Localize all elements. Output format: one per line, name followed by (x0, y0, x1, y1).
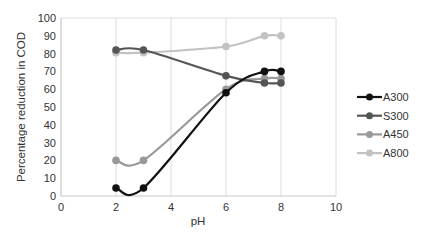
legend-label: A450 (383, 128, 409, 140)
gridlines (61, 18, 336, 196)
x-axis-label: pH (191, 215, 206, 227)
data-point (140, 46, 148, 54)
y-tick-label: 90 (44, 30, 56, 42)
series-line (116, 70, 281, 195)
legend-label: S300 (383, 110, 409, 122)
legend: A300S300A450A800 (357, 91, 409, 159)
axes (61, 18, 336, 196)
y-tick-label: 10 (44, 172, 56, 184)
data-point (140, 184, 148, 192)
series-line (116, 78, 281, 166)
x-tick-label: 6 (223, 201, 229, 213)
legend-item-a450: A450 (357, 128, 409, 140)
data-series (112, 32, 285, 195)
legend-item-a800: A800 (357, 147, 409, 159)
data-point (222, 43, 230, 51)
y-tick-label: 40 (44, 119, 56, 131)
x-tick-label: 10 (330, 201, 342, 213)
data-point (261, 68, 269, 76)
y-tick-label: 70 (44, 65, 56, 77)
data-point (277, 68, 285, 76)
data-point (140, 157, 148, 165)
x-tick-label: 4 (168, 201, 174, 213)
legend-label: A800 (383, 147, 409, 159)
x-tick-label: 8 (278, 201, 284, 213)
legend-label: A300 (383, 91, 409, 103)
legend-item-a300: A300 (357, 91, 409, 103)
legend-point-marker (366, 94, 373, 101)
legend-point-marker (366, 112, 373, 119)
y-axis-label: Percentage reduction in COD (15, 32, 27, 182)
data-point (112, 184, 120, 192)
series-a450 (112, 75, 285, 166)
y-tick-label: 60 (44, 83, 56, 95)
y-tick-label: 20 (44, 154, 56, 166)
x-tick-label: 2 (113, 201, 119, 213)
series-a800 (112, 32, 285, 57)
series-a300 (112, 68, 285, 195)
legend-item-s300: S300 (357, 110, 409, 122)
x-tick-label: 0 (58, 201, 64, 213)
x-axis-ticks: 0246810 (58, 201, 342, 213)
y-axis-ticks: 0102030405060708090100 (38, 12, 56, 202)
y-tick-label: 50 (44, 101, 56, 113)
data-point (261, 32, 269, 40)
data-point (222, 72, 230, 80)
data-point (277, 79, 285, 87)
legend-point-marker (366, 131, 373, 138)
data-point (222, 89, 230, 97)
data-point (261, 79, 269, 87)
chart-container: 0102030405060708090100 0246810 pH Percen… (0, 0, 427, 239)
data-point (112, 157, 120, 165)
legend-point-marker (366, 150, 373, 157)
y-tick-label: 0 (50, 190, 56, 202)
y-tick-label: 30 (44, 137, 56, 149)
line-chart: 0102030405060708090100 0246810 pH Percen… (0, 0, 427, 239)
y-tick-label: 100 (38, 12, 56, 24)
y-tick-label: 80 (44, 48, 56, 60)
data-point (277, 32, 285, 40)
data-point (112, 46, 120, 54)
